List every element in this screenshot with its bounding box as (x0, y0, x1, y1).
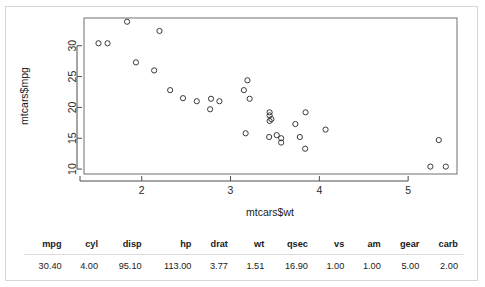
plot-svg: 1015202530 2345 mtcars$wt mtcars$mpg (6, 7, 479, 222)
y-axis-tick-label: 15 (66, 132, 78, 144)
data-point (303, 110, 308, 115)
data-point (428, 164, 433, 169)
x-axis-tick-label: 2 (139, 184, 145, 196)
table-column-header: wt (234, 235, 270, 255)
data-point (208, 96, 213, 101)
data-point (443, 164, 448, 169)
data-table: mpgcyldisphpdratwtqsecvsamgearcarb 30.40… (24, 235, 464, 275)
data-table-container: mpgcyldisphpdratwtqsecvsamgearcarb 30.40… (24, 235, 464, 275)
table-cell: 30.40 (24, 255, 68, 276)
x-axis: 2345 (80, 176, 411, 196)
table-cell: 5.00 (387, 255, 426, 276)
data-point (133, 60, 138, 65)
data-point (157, 28, 162, 33)
data-point (152, 68, 157, 73)
table-cell: 3.77 (197, 255, 233, 276)
table-column-header: hp (148, 235, 198, 255)
table-cell: 1.51 (234, 255, 270, 276)
data-point (180, 96, 185, 101)
table-cell: 4.00 (68, 255, 104, 276)
table-column-header: drat (197, 235, 233, 255)
data-point (243, 131, 248, 136)
data-point (168, 88, 173, 93)
table-column-header: disp (104, 235, 148, 255)
data-point (293, 121, 298, 126)
x-axis-tick-label: 4 (316, 184, 322, 196)
table-cell: 2.00 (425, 255, 464, 276)
result-card: 1015202530 2345 mtcars$wt mtcars$mpg mpg… (5, 6, 478, 281)
y-axis-tick-label: 25 (66, 71, 78, 83)
table-cell: 1.00 (314, 255, 350, 276)
table-row: 30.404.0095.10113.003.771.5116.901.001.0… (24, 255, 464, 276)
data-point (241, 88, 246, 93)
table-cell: 95.10 (104, 255, 148, 276)
data-points (96, 19, 449, 169)
data-point (208, 107, 213, 112)
data-point (267, 134, 272, 139)
data-point (194, 99, 199, 104)
data-point (105, 41, 110, 46)
table-column-header: vs (314, 235, 350, 255)
table-column-header: carb (425, 235, 464, 255)
y-axis-tick-label: 20 (66, 101, 78, 113)
table-column-header: cyl (68, 235, 104, 255)
data-point (124, 19, 129, 24)
table-cell: 113.00 (148, 255, 198, 276)
y-axis: 1015202530 (66, 40, 82, 175)
table-column-header: mpg (24, 235, 68, 255)
data-point (303, 146, 308, 151)
y-axis-tick-label: 10 (66, 163, 78, 175)
x-axis-tick-label: 5 (405, 184, 411, 196)
data-point (245, 78, 250, 83)
data-point (96, 41, 101, 46)
data-point (323, 127, 328, 132)
table-column-header: am (350, 235, 386, 255)
table-column-header: gear (387, 235, 426, 255)
table-column-header: qsec (270, 235, 314, 255)
table-cell: 1.00 (350, 255, 386, 276)
x-axis-title: mtcars$wt (246, 206, 294, 218)
data-point (217, 99, 222, 104)
plot-frame (84, 18, 457, 174)
x-axis-tick-label: 3 (228, 184, 234, 196)
table-header-row: mpgcyldisphpdratwtqsecvsamgearcarb (24, 235, 464, 255)
table-body: 30.404.0095.10113.003.771.5116.901.001.0… (24, 255, 464, 276)
scatter-plot: 1015202530 2345 mtcars$wt mtcars$mpg (6, 7, 479, 222)
data-point (436, 137, 441, 142)
data-point (247, 96, 252, 101)
table-cell: 16.90 (270, 255, 314, 276)
y-axis-tick-label: 30 (66, 40, 78, 52)
data-point (297, 134, 302, 139)
y-axis-title: mtcars$mpg (18, 67, 30, 125)
